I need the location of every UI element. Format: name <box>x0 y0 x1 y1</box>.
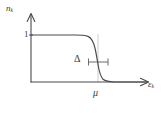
y-axis-label: nk <box>6 4 13 14</box>
delta-annotation-label: Δ <box>74 54 80 64</box>
x-axis-label-subscript: k <box>152 83 154 89</box>
plot-canvas <box>0 0 164 113</box>
y-tick-label-one: 1 <box>24 30 29 39</box>
fermi-dirac-figure: nk εk 1 μ Δ <box>0 0 164 113</box>
fermi-dirac-curve <box>31 35 147 82</box>
x-tick-label-mu: μ <box>93 88 98 98</box>
y-axis-label-subscript: k <box>11 7 13 13</box>
x-axis-label: εk <box>148 80 154 90</box>
